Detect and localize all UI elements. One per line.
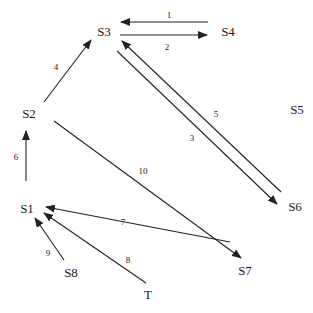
edge-label: 5 (214, 109, 219, 119)
edge-label: 10 (139, 166, 149, 176)
edge-s2-to-s3: 4 (44, 40, 91, 102)
edge-label: 7 (121, 217, 126, 227)
edge-s3-to-s6: 3 (117, 51, 277, 204)
nodes-layer: S1S2S3S4S5S6S7S8T (20, 24, 304, 302)
node-s3: S3 (97, 24, 111, 39)
edge-line (46, 207, 230, 242)
edge-label: 8 (126, 255, 131, 265)
edge-line (44, 40, 91, 102)
edge-label: 3 (190, 133, 195, 143)
node-s5: S5 (290, 102, 304, 117)
state-graph: 12345678910 S1S2S3S4S5S6S7S8T (0, 0, 313, 313)
edge-s7-to-s1: 7 (46, 207, 230, 242)
node-s8: S8 (64, 265, 78, 280)
edge-s4-to-s3: 1 (121, 10, 208, 22)
node-s2: S2 (22, 106, 36, 121)
edge-s3-to-s4: 2 (120, 35, 207, 52)
node-s4: S4 (221, 24, 235, 39)
node-t: T (144, 287, 152, 302)
edge-label: 6 (14, 152, 19, 162)
edge-label: 9 (46, 248, 51, 258)
edge-label: 2 (165, 42, 170, 52)
node-s1: S1 (20, 201, 34, 216)
edge-s1-to-s2: 6 (14, 131, 26, 181)
edge-label: 1 (167, 10, 172, 20)
edges-layer: 12345678910 (14, 10, 281, 283)
edge-line (54, 121, 241, 258)
edge-s2-to-s7: 10 (54, 121, 241, 258)
diagram-canvas: 12345678910 S1S2S3S4S5S6S7S8T (0, 0, 313, 313)
edge-label: 4 (54, 62, 59, 72)
edge-line (117, 51, 277, 204)
node-s6: S6 (288, 199, 302, 214)
node-s7: S7 (238, 263, 252, 278)
